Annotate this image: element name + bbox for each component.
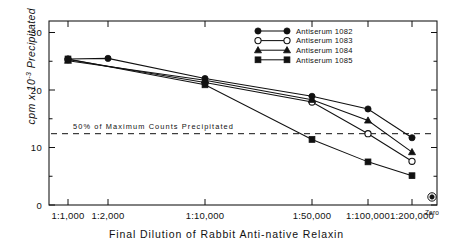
series-3 (65, 57, 416, 155)
data-point (409, 135, 415, 141)
plot-frame (49, 21, 437, 205)
y-axis-title: cpm x 10-3 Precipitated (25, 0, 38, 141)
y-axis-title-prefix: cpm x 10 (25, 79, 37, 125)
data-point (409, 149, 416, 155)
data-point (202, 82, 208, 88)
x-tick-label: 1:2,000 (91, 210, 124, 221)
chart-legend: Antiserum 1082Antiserum 1083Antiserum 10… (255, 27, 353, 65)
data-point (105, 55, 111, 61)
x-axis-title: Final Dilution of Rabbit Anti-native Rel… (0, 228, 453, 240)
x-tick-label: 1:50,000 (293, 210, 332, 221)
y-tick-label: 0 (36, 200, 42, 211)
zero-point-marker (430, 195, 434, 199)
data-point (409, 158, 415, 164)
legend-label: Antiserum 1085 (296, 56, 353, 65)
figure-container: cpm x 10-3 Precipitated 0102030 1:1,0001… (0, 0, 453, 250)
x-tick-label: 1:10,000 (186, 210, 225, 221)
legend-item: Antiserum 1083 (255, 36, 353, 45)
legend-marker (255, 57, 261, 63)
legend-item: Antiserum 1085 (255, 56, 353, 65)
data-point (409, 173, 415, 179)
fifty-percent-label: 50% of Maximum Counts Precipitated (73, 122, 234, 131)
legend-label: Antiserum 1082 (296, 27, 353, 36)
series-4 (65, 56, 415, 179)
series-layer (65, 55, 416, 178)
legend-marker (284, 28, 290, 34)
data-point (65, 56, 71, 62)
y-axis-ticks: 0102030 (31, 27, 437, 211)
legend-marker (255, 38, 261, 44)
series-line (68, 60, 412, 162)
data-point (365, 106, 371, 112)
legend-label: Antiserum 1083 (296, 36, 353, 45)
legend-item: Antiserum 1084 (255, 46, 353, 55)
y-tick-label: 10 (31, 142, 42, 153)
chart-plot-area: 0102030 1:1,0001:2,0001:10,0001:50,0001:… (0, 0, 453, 250)
x-tick-label: 1:1,000 (51, 210, 84, 221)
data-point (309, 137, 315, 143)
series-2 (65, 56, 415, 164)
legend-marker (284, 57, 290, 63)
legend-label: Antiserum 1084 (296, 46, 353, 55)
series-line (68, 61, 412, 152)
data-point (365, 131, 371, 137)
x-tick-label: 1:100,000 (346, 210, 390, 221)
zero-point-label: Zero (425, 209, 439, 216)
y-axis-title-exponent: -3 (25, 72, 32, 79)
y-axis-title-suffix: Precipitated (25, 8, 37, 72)
legend-marker (255, 28, 261, 34)
legend-marker (284, 38, 290, 44)
data-point (365, 159, 371, 165)
legend-item: Antiserum 1082 (255, 27, 353, 36)
